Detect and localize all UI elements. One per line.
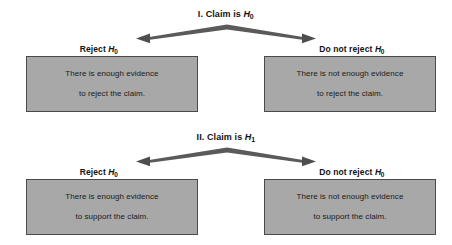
right-arrow-shaft-2 bbox=[227, 148, 306, 164]
branch-label-reject-2: Reject H0 bbox=[0, 167, 198, 178]
outcome-box-reject-2-line1: There is enough evidence bbox=[65, 192, 158, 202]
right-arrow-head-2 bbox=[302, 157, 316, 167]
branch-label-reject-1-subscript: 0 bbox=[114, 48, 118, 55]
outcome-box-do-not-reject-1-line2: to reject the claim. bbox=[317, 89, 383, 99]
panel-title-1-prefix: I. Claim is bbox=[198, 9, 244, 19]
outcome-box-reject-2-line2: to support the claim. bbox=[75, 212, 148, 222]
right-arrow-head-1 bbox=[302, 34, 316, 44]
left-arrow-head-1 bbox=[136, 34, 150, 44]
branch-label-reject-2-prefix: Reject bbox=[80, 167, 109, 177]
branch-label-reject-1: Reject H0 bbox=[0, 44, 198, 55]
branch-label-reject-2-subscript: 0 bbox=[114, 171, 118, 178]
panel-claim-h0: I. Claim is H0 Reject H0 Do not reject H… bbox=[0, 0, 452, 122]
outcome-box-do-not-reject-2-line2: to support the claim. bbox=[313, 212, 386, 222]
outcome-box-do-not-reject-2-line1: There is not enough evidence bbox=[297, 192, 404, 202]
panel-claim-h1: II. Claim is H1 Reject H0 Do not reject … bbox=[0, 123, 452, 245]
left-arrow-head-2 bbox=[136, 157, 150, 167]
branch-label-do-not-reject-1-subscript: 0 bbox=[381, 48, 385, 55]
branch-label-do-not-reject-2: Do not reject H0 bbox=[253, 167, 451, 178]
panel-title-2: II. Claim is H1 bbox=[0, 132, 452, 143]
outcome-box-reject-1-line2: to reject the claim. bbox=[79, 89, 145, 99]
panel-title-1: I. Claim is H0 bbox=[0, 9, 452, 20]
hypothesis-test-outcomes-diagram: I. Claim is H0 Reject H0 Do not reject H… bbox=[0, 0, 452, 245]
outcome-box-reject-2: There is enough evidence to support the … bbox=[26, 179, 198, 235]
outcome-box-reject-1: There is enough evidence to reject the c… bbox=[26, 56, 198, 112]
outcome-box-do-not-reject-1: There is not enough evidence to reject t… bbox=[264, 56, 436, 112]
branch-label-do-not-reject-1: Do not reject H0 bbox=[253, 44, 451, 55]
branch-label-do-not-reject-2-prefix: Do not reject bbox=[319, 167, 375, 177]
right-arrow-shaft-1 bbox=[227, 25, 306, 41]
branch-label-reject-1-prefix: Reject bbox=[80, 44, 109, 54]
branch-label-do-not-reject-2-subscript: 0 bbox=[381, 171, 385, 178]
outcome-box-do-not-reject-1-line1: There is not enough evidence bbox=[297, 69, 404, 79]
panel-title-1-subscript: 0 bbox=[250, 13, 254, 20]
panel-title-2-prefix: II. Claim is bbox=[197, 132, 245, 142]
outcome-box-reject-1-line1: There is enough evidence bbox=[65, 69, 158, 79]
left-arrow-shaft-1 bbox=[146, 25, 227, 41]
left-arrow-shaft-2 bbox=[146, 148, 227, 164]
branch-label-do-not-reject-1-prefix: Do not reject bbox=[319, 44, 375, 54]
panel-title-2-subscript: 1 bbox=[251, 136, 255, 143]
outcome-box-do-not-reject-2: There is not enough evidence to support … bbox=[264, 179, 436, 235]
